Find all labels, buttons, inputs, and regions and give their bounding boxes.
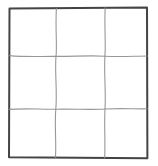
grid-figure — [0, 0, 158, 166]
grid-vertical-line-2 — [105, 8, 106, 158]
grid-canvas — [0, 0, 158, 166]
grid-outer-border — [9, 7, 147, 158]
